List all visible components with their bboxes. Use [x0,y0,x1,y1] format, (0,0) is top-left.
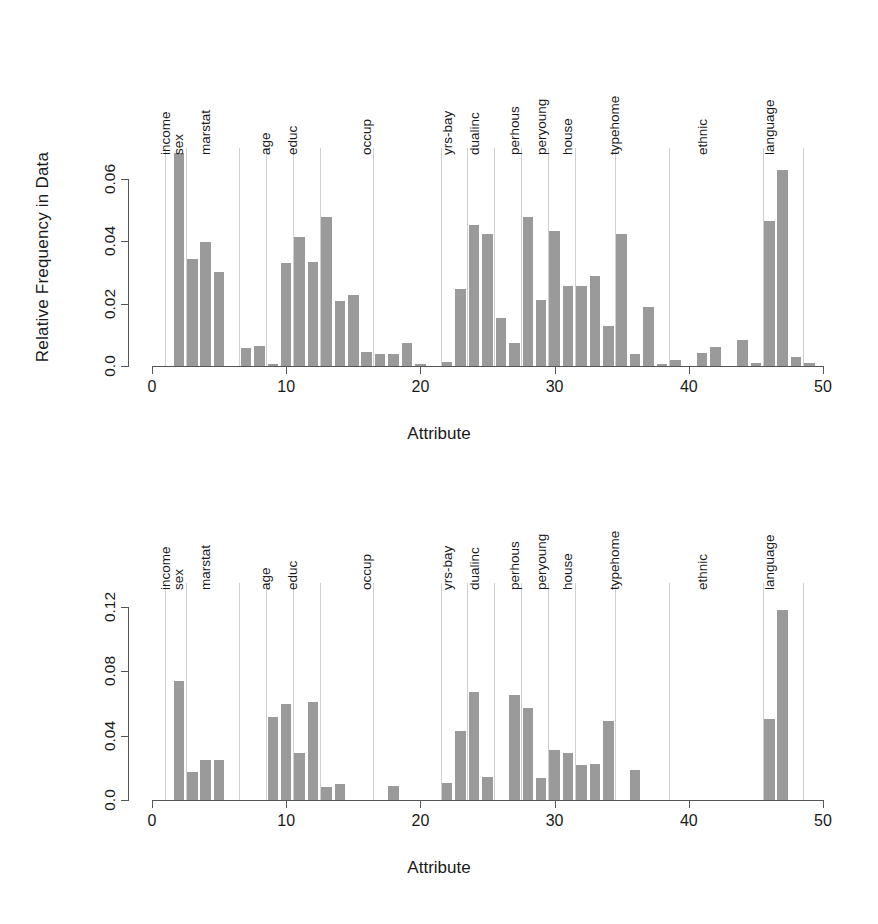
group-divider [803,583,804,800]
x-tick-mark [286,366,287,374]
y-tick-label-0: 0.0 [101,770,119,830]
group-divider [494,583,495,800]
group-label-educ: educ [285,561,300,590]
bar [402,343,413,366]
bar [523,708,534,800]
x-tick-label-3: 30 [546,378,564,396]
bar [254,346,265,366]
bar [281,704,292,800]
bar [241,348,252,366]
bar [710,347,721,366]
x-tick-mark [555,366,556,374]
x-axis-title: Attribute [0,858,878,878]
group-divider [239,148,240,366]
y-tick-mark [121,304,129,305]
group-label-dualinc: dualinc [467,547,482,590]
group-label-dualinc: dualinc [467,112,482,155]
bar [630,354,641,366]
y-tick-label-3: 0.12 [101,577,119,637]
x-axis-line [152,800,823,801]
x-tick-label-4: 40 [680,378,698,396]
x-tick-mark [689,366,690,374]
y-axis-line [128,607,129,800]
bar [174,153,185,366]
y-tick-mark [121,179,129,180]
bar [509,343,520,366]
bar [294,237,305,366]
x-tick-label-2: 20 [411,812,429,830]
bar [616,234,627,366]
bar [549,231,560,366]
bar [321,217,332,366]
group-divider [186,583,187,800]
bar [549,750,560,800]
bar [603,326,614,366]
bar [737,340,748,366]
bar [388,786,399,800]
bar [200,760,211,800]
group-divider [669,148,670,366]
bar [174,681,185,800]
chart-panel-2: Relative Frequency in Association Rules0… [0,462,878,924]
y-axis-title: Relative Frequency in Data [33,152,53,362]
x-axis-title: Attribute [0,424,878,444]
x-tick-label-2: 20 [411,378,429,396]
y-tick-mark [121,241,129,242]
bar [375,354,386,366]
bar [643,307,654,366]
group-label-yrs-bay: yrs-bay [440,111,455,155]
bar [536,778,547,801]
x-tick-mark [555,800,556,808]
bar [590,276,601,366]
bar [576,765,587,800]
bar [469,692,480,801]
bar [764,221,775,366]
group-label-ethnic: ethnic [695,554,710,590]
bar [777,610,788,800]
bar [200,242,211,366]
figure-root: Relative Frequency in Data0.00.020.040.0… [0,0,878,924]
group-divider [165,148,166,366]
group-label-peryoung: peryoung [534,534,549,590]
bar [603,721,614,800]
bar [335,784,346,800]
bar [455,731,466,800]
bar [536,300,547,366]
group-label-age: age [258,567,273,590]
bar [630,770,641,800]
group-label-peryoung: peryoung [534,99,549,155]
x-tick-label-0: 0 [148,812,157,830]
bar [361,352,372,366]
group-label-yrs-bay: yrs-bay [440,546,455,590]
bar [563,753,574,800]
group-label-house: house [560,553,575,590]
x-axis-line [152,366,823,367]
bar [509,695,520,800]
bar [496,318,507,366]
bar [523,217,534,366]
group-label-typehome: typehome [607,96,622,155]
group-divider [266,148,267,366]
bar [348,295,359,366]
chart-panel-1: Relative Frequency in Data0.00.020.040.0… [0,0,878,462]
group-label-age: age [258,132,273,155]
bar [335,301,346,366]
x-tick-mark [420,800,421,808]
bar [482,777,493,800]
bar [442,783,453,800]
y-tick-label-1: 0.04 [101,706,119,766]
y-tick-label-3: 0.06 [101,149,119,209]
bar [214,272,225,366]
group-label-perhous: perhous [507,541,522,590]
bar [590,764,601,800]
y-tick-mark [121,800,129,801]
bar [268,717,279,800]
x-tick-label-4: 40 [680,812,698,830]
group-label-perhous: perhous [507,106,522,155]
bar [482,234,493,366]
y-tick-label-2: 0.08 [101,641,119,701]
x-tick-label-5: 50 [814,812,832,830]
x-tick-mark [152,800,153,808]
group-divider [165,583,166,800]
group-divider [803,148,804,366]
